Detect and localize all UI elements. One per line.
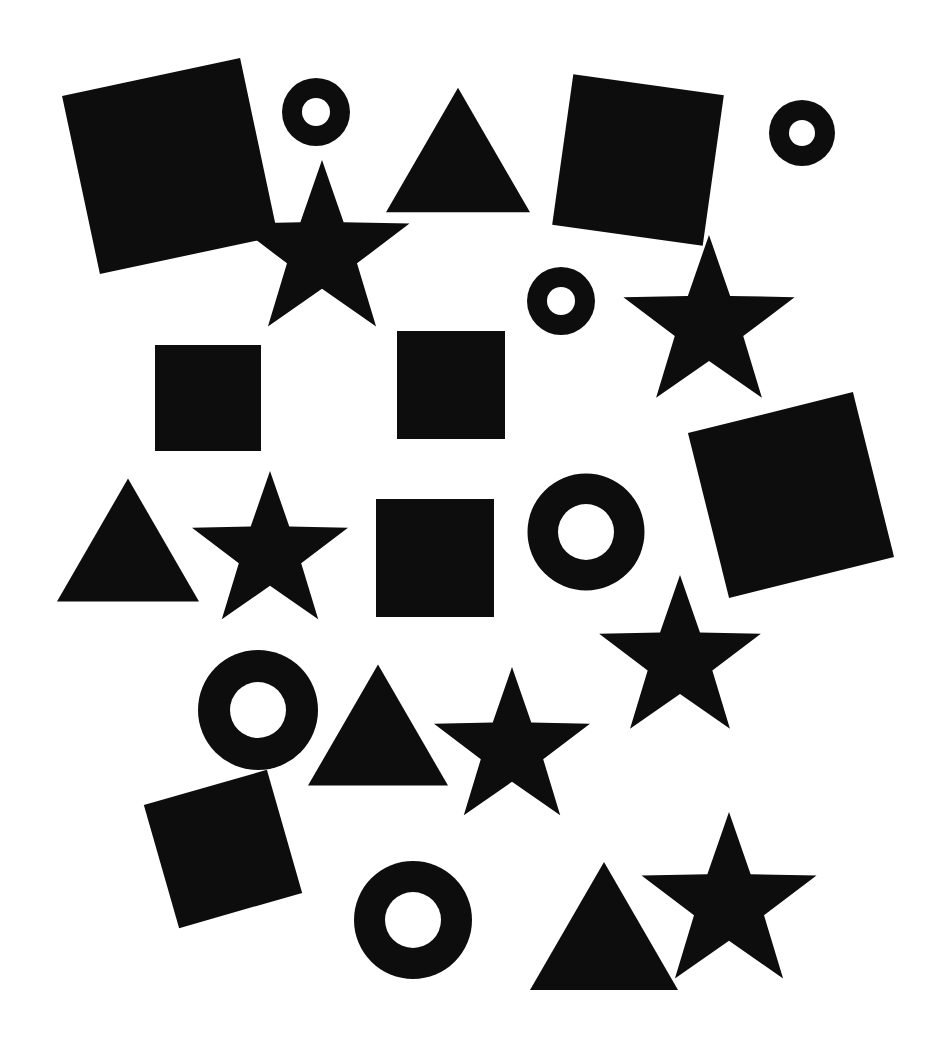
shape-canvas	[0, 0, 936, 1041]
circle-6-hole	[385, 892, 441, 948]
circle-6	[354, 861, 472, 979]
circle-4-hole	[558, 504, 614, 560]
circle-3-hole	[547, 287, 575, 315]
circle-2-hole	[789, 120, 815, 146]
circle-5	[198, 650, 318, 770]
square-2	[552, 74, 724, 246]
circle-5-hole	[230, 682, 286, 738]
square-4	[397, 331, 505, 439]
circle-2	[769, 100, 835, 166]
shape-canvas-root	[0, 0, 936, 1041]
square-1	[62, 58, 278, 274]
circle-4	[528, 474, 645, 591]
circle-1	[282, 78, 350, 146]
square-3	[155, 345, 261, 451]
circle-1-hole	[302, 98, 330, 126]
square-6	[376, 499, 494, 617]
circle-3	[527, 267, 595, 335]
